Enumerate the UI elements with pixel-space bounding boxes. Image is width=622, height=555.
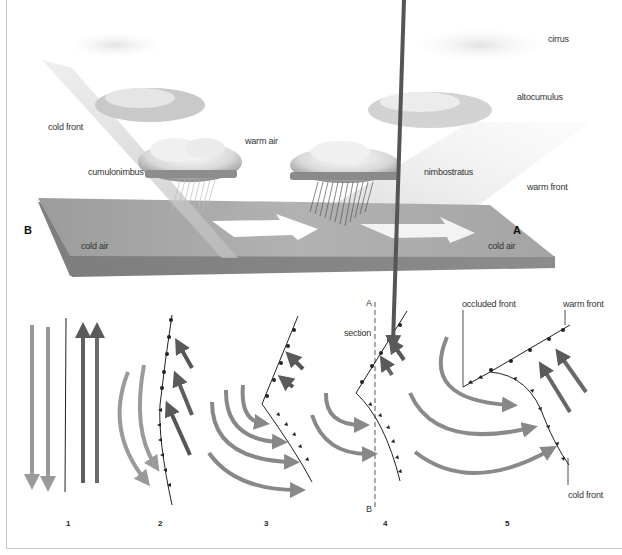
- slab-front-face: [70, 256, 555, 277]
- occluded-front-label: occluded front: [462, 299, 516, 309]
- section-top-label: A: [366, 298, 372, 308]
- stage-2: 2: [120, 315, 192, 528]
- label-cold-air-right: cold air: [488, 241, 516, 251]
- altocumulus-cloud-icon: [368, 92, 492, 128]
- stage-number: 2: [158, 519, 163, 528]
- faint-cloud-icon: [70, 33, 160, 57]
- warm-front-label: warm front: [562, 299, 604, 309]
- cold-front-line: [490, 372, 569, 465]
- cirrus-cloud-icon: [420, 29, 540, 61]
- label-nimbostratus: nimbostratus: [424, 167, 474, 177]
- stage-number: 4: [383, 519, 388, 528]
- label-cold-front: cold front: [48, 122, 84, 132]
- stage-1: 1: [32, 318, 97, 528]
- section-label: section: [344, 328, 371, 338]
- cold-front-label: cold front: [568, 490, 604, 500]
- cloud-icon: [95, 88, 205, 122]
- nimbostratus-cloud-icon: [290, 141, 400, 183]
- front-line: [262, 316, 312, 482]
- stage-5: occluded front warm front cold front 5: [410, 299, 604, 528]
- fronts-diagram: cirrus altocumulus cold front warm air c…: [0, 0, 622, 555]
- label-warm-air: warm air: [244, 136, 278, 146]
- stage-number: 3: [264, 519, 269, 528]
- label-altocumulus: altocumulus: [517, 92, 564, 102]
- stage-number: 5: [505, 519, 510, 528]
- label-cirrus: cirrus: [548, 34, 569, 44]
- label-warm-front: warm front: [526, 182, 568, 192]
- label-point-b: B: [24, 224, 32, 236]
- label-point-a: A: [513, 224, 521, 236]
- label-cumulonimbus: cumulonimbus: [88, 167, 144, 177]
- stage-3: 3: [209, 316, 312, 528]
- label-cold-air-left: cold air: [81, 241, 109, 251]
- stage-number: 1: [66, 519, 71, 528]
- top-panel-cross-section: cirrus altocumulus cold front warm air c…: [24, 29, 590, 277]
- cumulonimbus-cloud-icon: [138, 138, 242, 182]
- stationary-front-line: [65, 318, 66, 492]
- section-bottom-label: B: [366, 504, 372, 514]
